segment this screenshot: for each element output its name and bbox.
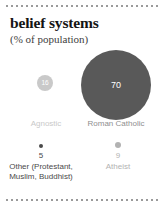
bubble-value-roman-catholic: 70 xyxy=(111,81,121,90)
divider-top xyxy=(6,5,159,7)
legend-label-other-line1: Other (Protestant, xyxy=(3,162,79,172)
bubble-value-agnostic: 16 xyxy=(41,80,48,87)
legend-value-atheist: 9 xyxy=(84,151,152,161)
belief-systems-infographic-card: belief systems (% of population) 70 16 A… xyxy=(0,0,165,208)
divider-bottom xyxy=(6,199,159,201)
bubble-roman-catholic[interactable]: 70 xyxy=(81,50,151,120)
bubble-label-roman-catholic: Roman Catholic xyxy=(74,119,158,128)
legend-dot-other xyxy=(39,144,43,148)
page-subtitle: (% of population) xyxy=(10,33,88,45)
page-title: belief systems xyxy=(10,15,99,31)
legend-item-other[interactable]: 5 Other (Protestant, Muslim, Buddhist) xyxy=(3,144,79,181)
legend-label-atheist: Atheist xyxy=(84,162,152,172)
legend-item-atheist[interactable]: 9 Atheist xyxy=(84,142,152,172)
legend-label-atheist-line1: Atheist xyxy=(84,162,152,172)
legend-value-other: 5 xyxy=(3,151,79,161)
legend-label-other: Other (Protestant, Muslim, Buddhist) xyxy=(3,162,79,181)
bubble-agnostic[interactable]: 16 xyxy=(37,75,53,91)
legend-dot-atheist xyxy=(115,142,121,148)
legend-label-other-line2: Muslim, Buddhist) xyxy=(3,172,79,182)
